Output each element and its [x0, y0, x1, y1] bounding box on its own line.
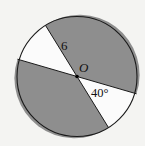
- center-label: O: [79, 60, 89, 75]
- angle-label: 40°: [91, 86, 109, 100]
- radius-label: 6: [61, 38, 68, 53]
- circle-diagram: O 6 40°: [0, 0, 145, 146]
- center-point: [75, 75, 79, 79]
